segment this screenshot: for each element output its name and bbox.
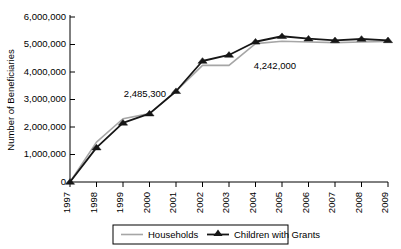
x-tick-label: 2002 [194,192,205,213]
chart-legend: Households Children with Grants [113,225,320,244]
children-with-grants-line [70,36,388,182]
y-axis-title: Number of Beneficiaries [5,49,16,151]
x-tick-label: 2000 [141,192,152,213]
y-tick-label: 2,000,000 [24,121,66,132]
x-tick-label: 2005 [273,192,284,213]
x-axis-ticks [70,182,388,187]
legend-label-households: Households [148,229,198,240]
y-axis-title-text: Number of Beneficiaries [5,49,16,151]
line-chart: Number of Beneficiaries 6,000,000 5,000,… [0,0,401,249]
x-tick-label: 2001 [167,192,178,213]
x-axis-tick-labels: 1997 1998 1999 2000 2001 2002 2003 2004 … [61,192,390,213]
x-tick-label: 1998 [88,192,99,213]
x-tick-label: 2004 [247,192,258,213]
y-axis-ticks: 6,000,000 5,000,000 4,000,000 3,000,000 … [24,11,75,187]
x-tick-label: 2003 [220,192,231,213]
legend-label-children-with-grants: Children with Grants [234,229,320,240]
chart-canvas: Number of Beneficiaries 6,000,000 5,000,… [0,0,401,249]
x-tick-label: 2006 [300,192,311,213]
series-children-with-grants [65,33,392,184]
y-tick-label: 3,000,000 [24,93,66,104]
x-tick-label: 1997 [61,192,72,213]
x-tick-label: 2007 [326,192,337,213]
annotation-4242000: 4,242,000 [254,60,296,71]
y-tick-label: 4,000,000 [24,66,66,77]
children-with-grants-markers [65,33,392,184]
data-point-marker [65,179,74,185]
annotation-2485300: 2,485,300 [124,88,166,99]
y-tick-label: 1,000,000 [24,148,66,159]
x-tick-label: 2008 [353,192,364,213]
y-tick-label: 5,000,000 [24,38,66,49]
series-households [70,41,388,182]
households-line [70,41,388,182]
x-tick-label: 1999 [114,192,125,213]
x-tick-label: 2009 [379,192,390,213]
y-tick-label: 0 [61,176,66,187]
y-tick-label: 6,000,000 [24,11,66,22]
